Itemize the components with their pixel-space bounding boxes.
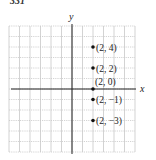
data-points: (2, 4)(2, 2)(2, 0)(2, −1)(2, −3) [91, 43, 122, 128]
y-axis-label: y [68, 11, 74, 22]
point-label: (2, 4) [96, 43, 117, 54]
point-label: (2, 2) [96, 64, 117, 75]
data-point [91, 87, 95, 91]
x-axis-label: x [139, 83, 145, 94]
data-point [91, 66, 95, 70]
coordinate-plane: x y (2, 4)(2, 2)(2, 0)(2, −1)(2, −3) [0, 0, 156, 160]
point-label: (2, −1) [96, 95, 122, 106]
point-label: (2, −3) [96, 116, 122, 127]
data-point [91, 45, 95, 49]
point-label: (2, 0) [95, 77, 116, 88]
data-point [91, 119, 95, 123]
data-point [91, 98, 95, 102]
